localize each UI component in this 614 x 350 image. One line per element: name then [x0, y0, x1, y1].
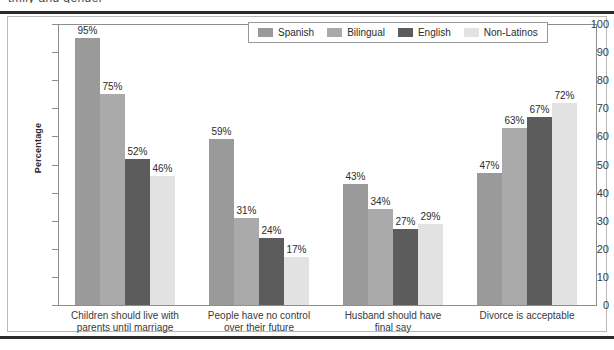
bar-value-label: 17%: [286, 244, 306, 255]
bar-english[interactable]: 67%: [527, 117, 552, 305]
caption-fragment: tmily and gender: [8, 0, 103, 3]
legend-swatch-icon: [258, 28, 273, 37]
y-axis-tick-mark: [52, 52, 58, 53]
bar-group: 59%31%24%17%: [209, 24, 309, 305]
bar-non-latinos[interactable]: 17%: [284, 257, 309, 305]
y-axis-tick-label: 30: [575, 215, 614, 227]
y-axis-title: Percentage: [33, 123, 43, 174]
bar-bilingual[interactable]: 75%: [100, 94, 125, 305]
bar-spanish[interactable]: 43%: [343, 184, 368, 305]
bar-value-label: 31%: [236, 205, 256, 216]
bar-bilingual[interactable]: 31%: [234, 218, 259, 305]
bar-group: 43%34%27%29%: [343, 24, 443, 305]
x-axis-category-label: People have no controlover their future: [189, 310, 329, 334]
y-axis-tick-label: 10: [575, 271, 614, 283]
legend-item[interactable]: Spanish: [258, 27, 314, 38]
bar-value-label: 24%: [261, 225, 281, 236]
y-axis-tick-label: 20: [575, 243, 614, 255]
bottom-divider-rule: [0, 336, 614, 339]
bar-bilingual[interactable]: 63%: [502, 128, 527, 305]
bar-value-label: 34%: [370, 196, 390, 207]
bar-spanish[interactable]: 47%: [477, 173, 502, 305]
bar-value-label: 46%: [152, 163, 172, 174]
bar-value-label: 52%: [127, 146, 147, 157]
legend-label: English: [418, 27, 451, 38]
y-axis-tick-mark: [52, 24, 58, 25]
y-axis-tick-mark: [52, 165, 58, 166]
y-axis-tick-mark: [52, 305, 58, 306]
bar-group: 95%75%52%46%: [75, 24, 175, 305]
x-axis-category-label: Husband should havefinal say: [323, 310, 463, 334]
legend-swatch-icon: [398, 28, 413, 37]
chart-legend: SpanishBilingualEnglishNon-Latinos: [248, 22, 548, 43]
bar-value-label: 29%: [420, 211, 440, 222]
bar-value-label: 63%: [504, 115, 524, 126]
y-axis-tick-mark: [52, 80, 58, 81]
y-axis-tick-label: 100: [575, 18, 614, 30]
y-axis-tick-label: 80: [575, 74, 614, 86]
y-axis-tick-mark: [52, 221, 58, 222]
y-axis-tick-label: 70: [575, 102, 614, 114]
y-axis-tick-mark: [52, 108, 58, 109]
legend-item[interactable]: Non-Latinos: [464, 27, 538, 38]
bar-spanish[interactable]: 59%: [209, 139, 234, 305]
y-axis-tick-label: 60: [575, 130, 614, 142]
bar-value-label: 59%: [211, 126, 231, 137]
x-axis-category-label: Children should live withparents until m…: [55, 310, 195, 334]
legend-swatch-icon: [464, 28, 479, 37]
bar-value-label: 75%: [102, 81, 122, 92]
bar-bilingual[interactable]: 34%: [368, 209, 393, 305]
bar-english[interactable]: 52%: [125, 159, 150, 305]
bar-group: 47%63%67%72%: [477, 24, 577, 305]
bar-value-label: 27%: [395, 216, 415, 227]
bar-english[interactable]: 27%: [393, 229, 418, 305]
y-axis-tick-mark: [52, 249, 58, 250]
bar-value-label: 95%: [77, 25, 97, 36]
legend-label: Non-Latinos: [484, 27, 538, 38]
bar-spanish[interactable]: 95%: [75, 38, 100, 305]
top-divider-rule: [0, 11, 614, 14]
bar-non-latinos[interactable]: 46%: [150, 176, 175, 305]
y-axis-tick-label: 40: [575, 187, 614, 199]
legend-label: Bilingual: [347, 27, 385, 38]
y-axis-tick-mark: [52, 136, 58, 137]
bars-layer: 95%75%52%46%59%31%24%17%43%34%27%29%47%6…: [59, 24, 595, 305]
bar-non-latinos[interactable]: 72%: [552, 103, 577, 305]
bar-value-label: 72%: [554, 90, 574, 101]
y-axis-tick-mark: [52, 193, 58, 194]
legend-swatch-icon: [327, 28, 342, 37]
bar-value-label: 67%: [529, 104, 549, 115]
y-axis-tick-label: 90: [575, 46, 614, 58]
bar-value-label: 47%: [479, 160, 499, 171]
bar-non-latinos[interactable]: 29%: [418, 224, 443, 305]
y-axis-tick-mark: [52, 277, 58, 278]
x-axis-line: [58, 305, 596, 306]
bar-english[interactable]: 24%: [259, 238, 284, 305]
y-axis-tick-label: 50: [575, 159, 614, 171]
bar-value-label: 43%: [345, 171, 365, 182]
x-axis-category-label: Divorce is acceptable: [457, 310, 597, 322]
legend-item[interactable]: Bilingual: [327, 27, 385, 38]
legend-item[interactable]: English: [398, 27, 451, 38]
legend-label: Spanish: [278, 27, 314, 38]
